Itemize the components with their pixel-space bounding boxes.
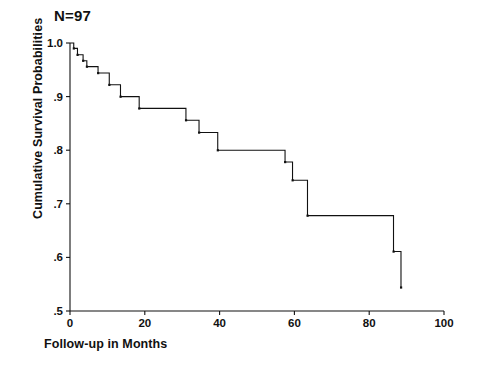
y-tick-label: .8: [53, 144, 63, 156]
survival-curve-line: [70, 43, 401, 287]
x-tick-label: 20: [138, 317, 151, 329]
survival-chart-figure: N=97 Cumulative Survival Probabilities F…: [0, 0, 495, 366]
y-tick-label: .7: [53, 198, 63, 210]
y-axis-ticks: .5.6.7.8.91.0: [47, 37, 70, 317]
x-axis-ticks: 020406080100: [67, 311, 454, 329]
x-tick-label: 80: [363, 317, 376, 329]
x-tick-label: 100: [434, 317, 453, 329]
step-event-markers: [73, 47, 402, 288]
x-tick-label: 0: [67, 317, 73, 329]
y-tick-label: 1.0: [47, 37, 63, 49]
y-tick-label: .9: [53, 91, 63, 103]
y-tick-label: .6: [53, 251, 63, 263]
axis-lines: [70, 43, 444, 311]
x-tick-label: 60: [288, 317, 301, 329]
x-tick-label: 40: [213, 317, 226, 329]
plot-area: .5.6.7.8.91.0020406080100: [0, 0, 495, 366]
y-tick-label: .5: [53, 305, 63, 317]
